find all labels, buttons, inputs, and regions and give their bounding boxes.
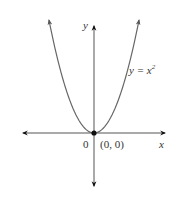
function-label-base: y = x [128, 64, 152, 76]
x-axis-label: x [158, 138, 164, 150]
y-axis-label: y [82, 19, 88, 31]
function-label: y = x2 [128, 63, 156, 76]
parabola-graph: y x 0 (0, 0) y = x2 [0, 0, 178, 198]
point-label: (0, 0) [100, 138, 124, 151]
function-label-exponent: 2 [152, 63, 156, 71]
origin-point [91, 130, 96, 135]
origin-label: 0 [83, 138, 89, 150]
